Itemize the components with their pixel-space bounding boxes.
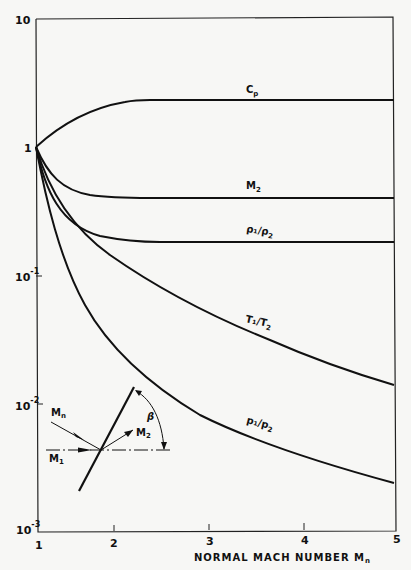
label-beta: β — [146, 411, 154, 422]
label-cp: Cp — [246, 84, 258, 98]
label-m1: M1 — [49, 453, 64, 466]
x-tick-2: 2 — [110, 537, 118, 550]
beta-arrowhead-top — [135, 390, 142, 396]
x-tick-1: 1 — [35, 539, 43, 552]
curve-cp — [36, 100, 394, 147]
shock-line — [79, 387, 134, 491]
oblique-shock-diagram: Mn M1 M2 β — [46, 387, 170, 491]
beta-arrowhead-bottom — [161, 442, 167, 450]
x-tick-5: 5 — [393, 533, 401, 546]
shock-relations-chart: 10 1 10-1 10-2 10-3 1 2 3 4 5 NORMAL MAC… — [0, 0, 411, 570]
label-m2-diagram: M2 — [136, 427, 151, 440]
y-tick-1: 1 — [24, 142, 32, 155]
y-tick-10: 10 — [15, 14, 31, 27]
x-ticks — [114, 523, 304, 531]
mn-arrowhead — [73, 432, 84, 440]
label-t-ratio: T₁/T2 — [244, 313, 273, 332]
curve-m2 — [36, 147, 394, 198]
m1-arrowhead — [78, 448, 92, 453]
x-axis-title: NORMAL MACH NUMBER Mn — [194, 552, 371, 565]
y-tick-0.1: 10-1 — [15, 267, 40, 284]
plot-frame — [36, 17, 396, 532]
m2-arrowhead — [124, 430, 133, 437]
y-tick-0.01: 10-2 — [15, 396, 39, 413]
curve-labels: Cp M2 ρ₁/ρ2 T₁/T2 p₁/p2 — [244, 84, 275, 434]
label-p-ratio: p₁/p2 — [245, 414, 275, 434]
x-tick-4: 4 — [301, 534, 309, 547]
y-tick-0.001: 10-3 — [16, 520, 40, 537]
label-m2: M2 — [246, 180, 261, 194]
curve-t-ratio — [36, 147, 394, 385]
label-rho-ratio: ρ₁/ρ2 — [245, 223, 274, 241]
x-tick-3: 3 — [206, 535, 214, 548]
label-mn: Mn — [51, 407, 66, 420]
curves — [36, 100, 394, 483]
x-tick-labels: 1 2 3 4 5 — [35, 533, 401, 552]
